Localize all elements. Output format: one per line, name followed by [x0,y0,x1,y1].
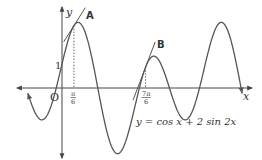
curve-arrow-left [27,93,32,100]
function-label: y = cos x + 2 sin 2x [135,116,237,127]
x-tick-7pi-6-den: 6 [144,98,148,106]
x-tick-7pi-6-num: 7π [142,90,151,98]
function-graph: y x O 1 π 6 7π 6 A B y = cos x + 2 sin 2… [0,0,262,160]
y-axis-label: y [65,6,73,19]
tangent-label-a: A [86,10,94,21]
origin-label: O [50,91,59,104]
tangent-label-b: B [157,39,165,50]
y-tick-1: 1 [55,60,61,71]
x-tick-pi-6-num: π [71,90,76,98]
x-tick-pi-6-den: 6 [71,98,75,106]
x-axis-label: x [243,90,250,103]
